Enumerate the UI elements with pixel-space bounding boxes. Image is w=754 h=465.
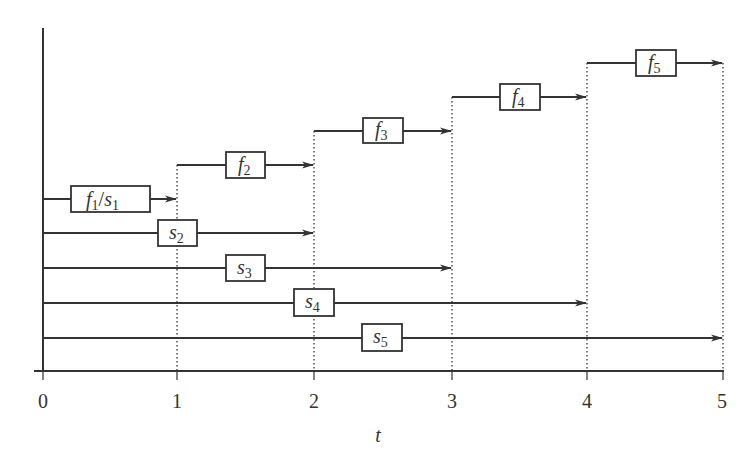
tick-label-1: 1	[172, 390, 182, 412]
tick-label-3: 3	[447, 390, 457, 412]
x-tick-labels: 0 1 2 3 4 5	[38, 390, 727, 412]
tick-label-0: 0	[38, 390, 48, 412]
tick-label-5: 5	[717, 390, 727, 412]
tick-label-2: 2	[309, 390, 319, 412]
tick-label-4: 4	[582, 390, 592, 412]
timeline-diagram: 0 1 2 3 4 5 t f1/s1 f2	[0, 0, 754, 465]
x-ticks	[43, 371, 723, 380]
dotted-guides	[177, 63, 723, 371]
x-axis-label: t	[375, 424, 381, 446]
